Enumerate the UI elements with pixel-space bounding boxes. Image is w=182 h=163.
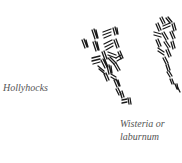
wisteria-label: Wisteria or laburnum bbox=[120, 117, 182, 143]
wisteria-cluster bbox=[154, 17, 180, 92]
wisteria-label-line2: laburnum bbox=[120, 130, 182, 143]
wisteria-label-line1: Wisteria or bbox=[120, 117, 182, 130]
hollyhocks-cluster bbox=[82, 27, 131, 104]
hollyhocks-label: Hollyhocks bbox=[3, 81, 48, 94]
